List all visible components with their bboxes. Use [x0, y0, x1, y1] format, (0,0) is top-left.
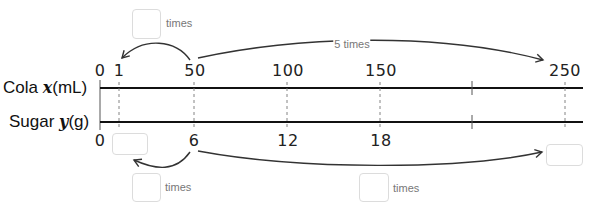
cola-unit: (mL): [52, 78, 87, 97]
double-number-line: [0, 0, 595, 213]
sugar-tick-18: 18: [370, 133, 391, 149]
sugar-at-1-input-box[interactable]: [112, 133, 148, 155]
cola-tick-0: 0: [95, 63, 106, 79]
bottom-long-arrow: [198, 151, 542, 165]
sugar-tick-0: 0: [95, 133, 106, 149]
sugar-tick-12: 12: [277, 133, 298, 149]
top-multiplier-times-label: times: [166, 18, 192, 29]
cola-tick-1: 1: [114, 63, 125, 79]
sugar-unit: (g): [68, 112, 89, 131]
bottom-long-multiplier-input-box[interactable]: [359, 173, 389, 202]
cola-tick-250: 250: [549, 63, 581, 79]
cola-label-text: Cola: [3, 78, 38, 97]
sugar-tick-6: 6: [189, 133, 200, 149]
top-short-arrow: [122, 43, 190, 60]
cola-row-label: Cola x(mL): [3, 79, 87, 96]
sugar-variable: y: [59, 112, 68, 131]
bottom-short-times-label: times: [165, 182, 191, 193]
sugar-at-250-input-box[interactable]: [546, 144, 583, 166]
bottom-long-times-label: times: [393, 183, 419, 194]
top-long-arc-label: 5 times: [333, 39, 370, 50]
cola-tick-50: 50: [184, 63, 205, 79]
cola-variable: x: [43, 78, 53, 97]
sugar-row-label: Sugar y(g): [9, 113, 89, 130]
sugar-label-text: Sugar: [9, 112, 54, 131]
cola-tick-100: 100: [272, 63, 304, 79]
top-multiplier-input-box[interactable]: [132, 9, 161, 39]
cola-tick-150: 150: [365, 63, 397, 79]
bottom-short-multiplier-input-box[interactable]: [132, 173, 161, 202]
